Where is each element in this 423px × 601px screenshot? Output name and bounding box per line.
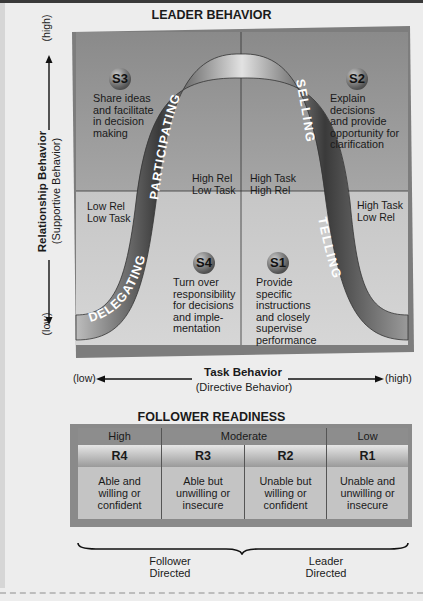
level-low: Low [326, 428, 408, 445]
desc-line: mentation [173, 323, 235, 335]
level-moderate: Moderate [161, 428, 326, 445]
corner-line: High Task [250, 172, 296, 184]
left-edge [0, 3, 5, 588]
desc-line: willing or [245, 487, 326, 499]
style-badge-s4: S4 [193, 252, 215, 274]
style-desc-s1: Provide specific instructions and closel… [256, 277, 317, 347]
code-r4: R4 [78, 445, 161, 467]
desc-r2: Unable but willing or confident [244, 467, 326, 519]
x-axis-right-arrow [288, 373, 384, 385]
desc-line: unwilling or [162, 487, 244, 499]
desc-r1: Unable and unwilling or insecure [326, 467, 408, 519]
bottom-dashed-border [0, 592, 423, 596]
corner-line: High Rel [192, 172, 236, 184]
desc-line: performance [256, 335, 317, 347]
desc-line: Unable and [327, 475, 408, 487]
style-badge-s2: S2 [346, 68, 368, 90]
style-badge-s1: S1 [267, 252, 289, 274]
group-line: Leader [276, 556, 376, 568]
corner-line: High Rel [250, 184, 296, 196]
group-line: Directed [276, 568, 376, 580]
desc-line: Share ideas [93, 93, 154, 105]
style-badge-s3: S3 [109, 68, 131, 90]
top-border [0, 0, 423, 3]
style-desc-s4: Turn over responsibility for decisions a… [173, 277, 235, 335]
code-r3: R3 [161, 445, 244, 467]
level-high: High [78, 428, 161, 445]
leader-behavior-title: LEADER BEHAVIOR [0, 8, 423, 22]
code-r1: R1 [326, 445, 408, 467]
desc-line: confident [78, 499, 161, 511]
group-follower-directed: Follower Directed [120, 556, 220, 579]
desc-line: Explain [330, 93, 399, 105]
desc-line: confident [245, 499, 326, 511]
x-axis-high-label: (high) [385, 372, 412, 384]
style-desc-s3: Share ideas and facilitate in decision m… [93, 93, 154, 139]
follower-readiness-title: FOLLOWER READINESS [0, 410, 423, 424]
desc-r3: Able but unwilling or insecure [161, 467, 244, 519]
x-axis-title: Task Behavior [190, 366, 296, 378]
desc-line: Able but [162, 475, 244, 487]
y-axis-high-label: (high) [40, 8, 52, 48]
desc-line: willing or [78, 487, 161, 499]
corner-line: Low Rel [357, 211, 403, 223]
desc-line: making [93, 128, 154, 140]
corner-line: Low Task [192, 184, 236, 196]
code-r2: R2 [244, 445, 326, 467]
label-low-rel-low-task: Low Rel Low Task [87, 200, 131, 224]
desc-line: Provide [256, 277, 317, 289]
desc-line: unwilling or [327, 487, 408, 499]
desc-line: Able and [78, 475, 161, 487]
desc-line: Turn over [173, 277, 235, 289]
desc-line: Unable but [245, 475, 326, 487]
grouping-braces [76, 541, 410, 555]
desc-r4: Able and willing or confident [78, 467, 161, 519]
corner-line: High Task [357, 199, 403, 211]
label-high-rel-low-task: High Rel Low Task [192, 172, 236, 196]
corner-line: Low Rel [87, 200, 131, 212]
y-axis-arrows [44, 55, 56, 325]
group-line: Follower [120, 556, 220, 568]
x-axis-subtitle: (Directive Behavior) [188, 381, 300, 393]
desc-line: insecure [327, 499, 408, 511]
x-axis-low-label: (low) [73, 372, 96, 384]
group-leader-directed: Leader Directed [276, 556, 376, 579]
x-axis-left-arrow [96, 373, 196, 385]
desc-line: clarification [330, 139, 399, 151]
label-high-task-high-rel: High Task High Rel [250, 172, 296, 196]
desc-line: insecure [162, 499, 244, 511]
group-line: Directed [120, 568, 220, 580]
label-high-task-low-rel: High Task Low Rel [357, 199, 403, 223]
style-desc-s2: Explain decisions and provide opportunit… [330, 93, 399, 151]
corner-line: Low Task [87, 212, 131, 224]
